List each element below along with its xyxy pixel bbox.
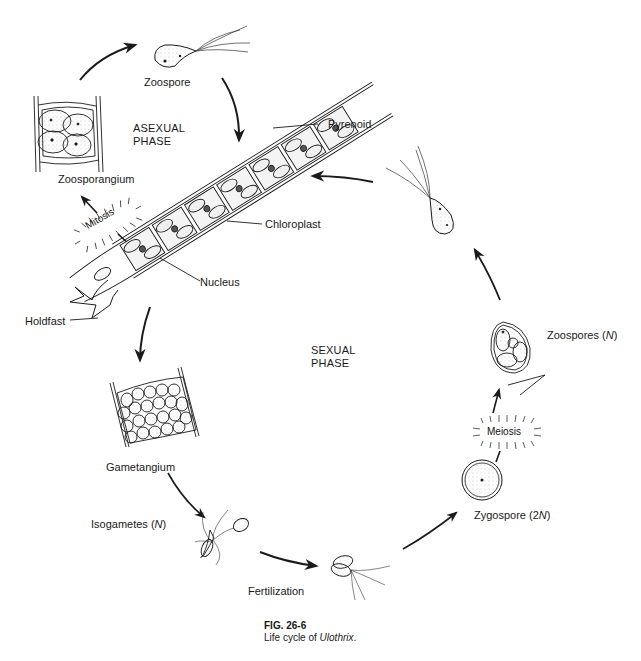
arrow-gametangium-to-isogametes [168,473,204,517]
sexual-phase-label: SEXUAL PHASE [311,344,356,370]
arrow-zoospore-to-filament [222,78,239,140]
zygospore-illustration [462,460,502,500]
zoosporangium-label: Zoosporangium [58,173,134,186]
zygospore-text: Zygospore (2 [474,509,539,521]
arrow-filament-to-gametangium [140,307,150,360]
holdfast-label: Holdfast [25,315,65,328]
arrow-isogametes-to-fertilization [260,552,316,566]
meiosis-label: Meiosis [487,426,521,437]
gametangium-illustration [110,367,199,447]
zoospore-right-illustration [386,146,453,234]
zoosporangium-illustration [34,96,103,172]
zoospores-sporangium-illustration [491,322,530,373]
asexual-phase-line2: PHASE [133,135,185,148]
holdfast-illustration [70,280,118,318]
asexual-phase-line1: ASEXUAL [133,122,185,135]
caption-prefix: Life cycle of [264,632,320,643]
isogametes-text: Isogametes ( [91,518,155,530]
isogametes-close: ) [163,518,167,530]
zoospore-label: Zoospore [144,76,190,89]
figure-caption: Life cycle of Ulothrix. [264,631,356,644]
gametangium-label: Gametangium [106,461,175,474]
zygospore-2n-label: Zygospore (2N) [474,509,550,522]
ulothrix-life-cycle-diagram [0,0,641,661]
zoospores-text: Zoospores ( [547,329,606,341]
isogametes-illustration [195,510,251,565]
zoospores-ploidy: N [606,329,614,341]
caption-organism: Ulothrix [320,632,354,643]
arrow-meiosis-to-zoospores [493,390,499,413]
zoospore-top-illustration [155,26,250,67]
arrow-mitosis-to-zoosporangium [82,197,97,213]
sexual-phase-line1: SEXUAL [311,344,356,357]
arrow-zoospores-to-zoospore [475,250,500,300]
meiosis-burst [473,415,541,462]
isogametes-n-label: Isogametes (N) [91,518,166,531]
pyrenoid-label: Pyrenoid [328,118,371,131]
zoospores-n-label: Zoospores (N) [547,329,617,342]
arrow-fertilization-to-zygospore [403,513,456,549]
zygospore-ploidy: N [539,509,547,521]
sexual-phase-line2: PHASE [311,357,356,370]
nucleus-label: Nucleus [200,276,240,289]
chloroplast-label: Chloroplast [265,218,321,231]
fertilization-label: Fertilization [248,585,304,598]
arrow-zoospore-to-filament-right [313,176,373,182]
zoospores-close: ) [614,329,618,341]
arrow-zoosporangium-to-zoospore [80,45,135,80]
asexual-phase-label: ASEXUAL PHASE [133,122,185,148]
fertilization-illustration [330,554,390,600]
isogametes-ploidy: N [155,518,163,530]
caption-suffix: . [354,632,357,643]
zygospore-close: ) [547,509,551,521]
